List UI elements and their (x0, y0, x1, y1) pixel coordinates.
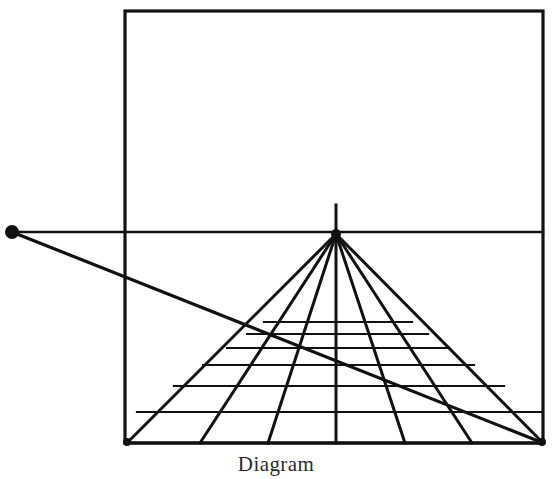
base-corner-junction (538, 438, 546, 446)
distance-point-marker (5, 225, 19, 239)
figure-caption-text: Diagram (0, 452, 552, 476)
perspective-diagram: Diagram (0, 0, 552, 479)
base-corner-junction (123, 438, 131, 446)
vanishing-point-junction (331, 229, 341, 239)
figure-caption: Diagram (0, 452, 552, 479)
perspective-construction-svg (0, 0, 552, 479)
